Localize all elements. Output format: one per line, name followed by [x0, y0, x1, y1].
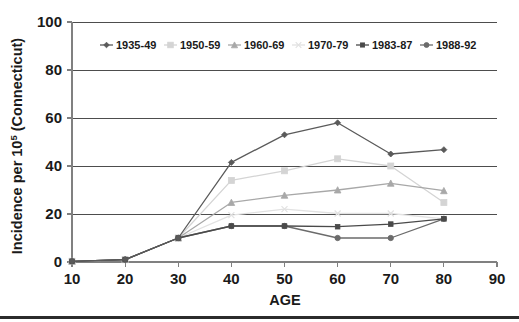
data-point-marker-circle: [388, 235, 393, 240]
data-point-marker-square: [168, 42, 174, 48]
data-point-marker-circle: [424, 43, 429, 48]
x-tick-label-70: 70: [382, 270, 399, 287]
data-point-marker-square: [335, 156, 341, 162]
legend-label-1988-92: 1988-92: [436, 39, 476, 51]
data-point-marker-square: [441, 199, 447, 205]
data-point-marker-square: [388, 163, 394, 169]
y-tick-label-20: 20: [45, 205, 62, 222]
data-point-marker-small-square: [335, 224, 340, 229]
x-tick-label-90: 90: [489, 270, 506, 287]
data-point-marker-small-square: [442, 217, 447, 222]
x-axis-tick-labels: 102030405060708090: [64, 270, 506, 287]
x-tick-label-60: 60: [329, 270, 346, 287]
data-point-marker-circle: [335, 235, 340, 240]
data-point-marker-square: [282, 168, 288, 174]
x-axis-title: AGE: [269, 292, 301, 308]
figure-container: 020406080100 102030405060708090 1935-491…: [0, 0, 519, 322]
x-tick-label-40: 40: [223, 270, 240, 287]
data-point-marker-small-square: [388, 222, 393, 227]
y-axis-title: Incidence per 105 (Connecticut): [8, 38, 25, 255]
line-chart: 020406080100 102030405060708090 1935-491…: [0, 0, 519, 322]
x-tick-label-80: 80: [436, 270, 453, 287]
data-point-marker-small-square: [360, 43, 364, 47]
y-tick-label-0: 0: [54, 253, 62, 270]
y-tick-label-100: 100: [37, 13, 62, 30]
y-tick-label-40: 40: [45, 157, 62, 174]
x-tick-label-20: 20: [117, 270, 134, 287]
legend-label-1950-59: 1950-59: [180, 39, 220, 51]
legend-label-1960-69: 1960-69: [244, 39, 284, 51]
y-axis-title-main: Incidence per 10: [9, 141, 25, 255]
legend-label-1970-79: 1970-79: [308, 39, 348, 51]
legend-label-1935-49: 1935-49: [116, 39, 156, 51]
data-point-marker-small-square: [282, 224, 287, 229]
svg-text:Incidence per 105 (Connecticut: Incidence per 105 (Connecticut): [8, 38, 25, 255]
y-tick-label-80: 80: [45, 61, 62, 78]
y-tick-label-60: 60: [45, 109, 62, 126]
y-axis-title-suffix: (Connecticut): [9, 38, 25, 136]
data-point-marker-square: [228, 177, 234, 183]
x-tick-label-10: 10: [64, 270, 81, 287]
x-tick-label-50: 50: [276, 270, 293, 287]
legend-label-1983-87: 1983-87: [372, 39, 412, 51]
x-tick-label-30: 30: [170, 270, 187, 287]
data-point-marker-small-square: [229, 224, 234, 229]
